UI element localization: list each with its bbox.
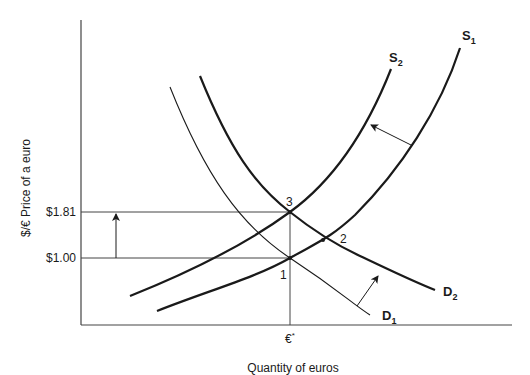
supply-curve-s1: [157, 48, 460, 311]
point-1-dot: [288, 256, 292, 260]
x-tick-estar: €*: [285, 331, 295, 346]
point-2-dot: [321, 238, 325, 242]
demand-shift-arrow: [357, 276, 378, 306]
y-axis-title: $/€ Price of a euro: [19, 139, 33, 237]
point-2-label: 2: [340, 232, 347, 246]
x-axis-title: Quantity of euros: [247, 361, 338, 375]
curve-label-d2: D2: [443, 284, 457, 302]
curve-label-s1: S1: [462, 28, 476, 46]
supply-curve-s2: [130, 69, 391, 296]
curve-label-d1: D1: [382, 308, 396, 326]
y-tick-181: $1.81: [46, 205, 76, 219]
point-3-dot: [288, 210, 292, 214]
point-3-label: 3: [286, 195, 293, 209]
supply-shift-arrow: [371, 125, 411, 145]
point-1-label: 1: [280, 268, 287, 282]
y-tick-100: $1.00: [46, 251, 76, 265]
demand-curve-d1: [170, 87, 370, 315]
supply-demand-diagram: 1 2 3 S1 S2 D1 D2 $1.81 $1.00 €* $/€ Pri…: [0, 0, 530, 375]
curve-label-s2: S2: [389, 50, 403, 68]
